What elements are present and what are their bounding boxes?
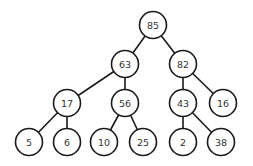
tree-node: 38 xyxy=(208,129,235,156)
tree-diagram: 85638217564316561025238 xyxy=(0,0,253,166)
node-label: 85 xyxy=(147,20,159,31)
node-label: 82 xyxy=(177,59,189,70)
tree-node: 17 xyxy=(54,90,81,117)
tree-node: 63 xyxy=(112,51,139,78)
node-label: 16 xyxy=(217,98,229,109)
tree-node: 6 xyxy=(54,129,81,156)
tree-node: 56 xyxy=(112,90,139,117)
tree-node: 10 xyxy=(91,129,118,156)
tree-node: 5 xyxy=(16,129,43,156)
tree-node: 25 xyxy=(130,129,157,156)
tree-node: 82 xyxy=(170,51,197,78)
node-label: 6 xyxy=(64,137,70,148)
node-label: 10 xyxy=(98,137,110,148)
tree-node: 16 xyxy=(210,90,237,117)
tree-node: 43 xyxy=(170,90,197,117)
node-label: 43 xyxy=(177,98,189,109)
node-label: 2 xyxy=(180,137,186,148)
node-label: 25 xyxy=(137,137,149,148)
node-label: 5 xyxy=(26,137,32,148)
tree-node: 85 xyxy=(140,12,167,39)
node-label: 56 xyxy=(119,98,131,109)
tree-node: 2 xyxy=(170,129,197,156)
tree-edges xyxy=(29,25,223,142)
node-label: 38 xyxy=(215,137,227,148)
node-label: 17 xyxy=(61,98,73,109)
node-label: 63 xyxy=(119,59,131,70)
